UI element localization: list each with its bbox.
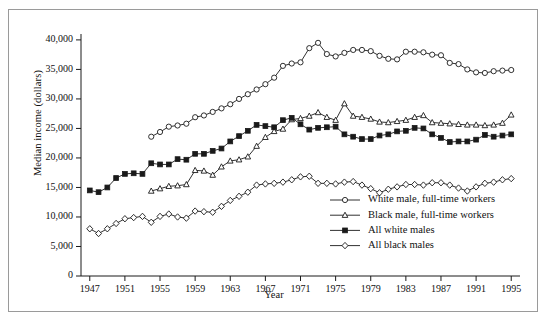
data-point bbox=[430, 52, 435, 57]
data-point bbox=[368, 49, 373, 54]
data-point bbox=[104, 226, 110, 232]
x-tick-label: 1959 bbox=[185, 283, 205, 294]
data-point bbox=[228, 139, 233, 144]
data-point bbox=[324, 180, 330, 186]
data-point bbox=[307, 127, 312, 132]
data-point bbox=[342, 50, 347, 55]
y-tick-label: 30,000 bbox=[46, 92, 74, 103]
data-point bbox=[263, 124, 268, 129]
x-tick-label: 1983 bbox=[396, 283, 416, 294]
data-point bbox=[412, 181, 418, 187]
data-point bbox=[192, 167, 198, 172]
data-point bbox=[447, 60, 452, 65]
data-point bbox=[184, 121, 189, 126]
data-point bbox=[333, 54, 338, 59]
data-point bbox=[359, 47, 364, 52]
data-point bbox=[157, 129, 162, 134]
legend-marker-circle-open bbox=[342, 197, 347, 202]
data-point bbox=[184, 157, 189, 162]
data-point bbox=[447, 182, 453, 188]
data-point bbox=[315, 110, 321, 115]
data-point bbox=[272, 125, 277, 130]
data-point bbox=[403, 128, 408, 133]
data-point bbox=[394, 184, 400, 190]
legend-marker-square-filled bbox=[343, 228, 348, 233]
data-point bbox=[315, 40, 320, 45]
data-point bbox=[447, 140, 452, 145]
x-tick-label: 1987 bbox=[431, 283, 451, 294]
data-point bbox=[175, 123, 180, 128]
data-point bbox=[456, 62, 461, 67]
series-3 bbox=[87, 173, 514, 237]
data-point bbox=[324, 51, 329, 56]
data-point bbox=[272, 75, 277, 80]
data-point bbox=[96, 230, 102, 236]
data-point bbox=[298, 60, 303, 65]
x-axis-ticks: 1947195119551959196319671971197519791983… bbox=[80, 276, 521, 294]
data-point bbox=[473, 184, 479, 190]
data-point bbox=[219, 106, 224, 111]
legend-item-all_white[interactable]: All white males bbox=[330, 224, 435, 235]
legend-label: Black male, full-time workers bbox=[368, 209, 494, 220]
data-point bbox=[350, 178, 356, 184]
data-point bbox=[289, 61, 294, 66]
data-point bbox=[368, 137, 373, 142]
series-line bbox=[151, 43, 511, 137]
x-tick-label: 1947 bbox=[80, 283, 100, 294]
data-point bbox=[438, 180, 444, 186]
y-tick-label: 35,000 bbox=[46, 63, 74, 74]
data-point bbox=[307, 46, 312, 51]
y-tick-label: 25,000 bbox=[46, 122, 74, 133]
data-point bbox=[491, 134, 496, 139]
data-point bbox=[184, 182, 190, 187]
data-point bbox=[254, 122, 259, 127]
data-point bbox=[139, 213, 145, 219]
y-tick-label: 40,000 bbox=[46, 33, 74, 44]
data-point bbox=[474, 70, 479, 75]
data-point bbox=[482, 180, 488, 186]
y-tick-label: 20,000 bbox=[46, 151, 74, 162]
data-point bbox=[403, 181, 409, 187]
x-tick-label: 1975 bbox=[326, 283, 346, 294]
data-point bbox=[456, 139, 461, 144]
data-point bbox=[351, 47, 356, 52]
data-point bbox=[148, 219, 154, 225]
data-point bbox=[131, 214, 137, 220]
data-point bbox=[219, 146, 224, 151]
legend-item-all_black[interactable]: All black males bbox=[330, 239, 434, 250]
data-point bbox=[429, 120, 435, 125]
x-tick-label: 1991 bbox=[466, 283, 486, 294]
data-point bbox=[201, 208, 207, 214]
data-point bbox=[193, 151, 198, 156]
data-point bbox=[280, 179, 286, 185]
data-point bbox=[377, 133, 382, 138]
data-point bbox=[114, 176, 119, 181]
data-point bbox=[465, 67, 470, 72]
legend-item-white_fulltime[interactable]: White male, full-time workers bbox=[330, 193, 495, 204]
data-point bbox=[158, 162, 163, 167]
data-point bbox=[333, 124, 338, 129]
data-point bbox=[491, 69, 496, 74]
legend-label: All white males bbox=[368, 224, 435, 235]
data-point bbox=[509, 132, 514, 137]
data-point bbox=[210, 148, 215, 153]
data-point bbox=[456, 185, 462, 191]
legend-item-black_fulltime[interactable]: Black male, full-time workers bbox=[330, 209, 494, 220]
data-point bbox=[421, 50, 426, 55]
data-point bbox=[201, 113, 206, 118]
axes bbox=[81, 34, 520, 276]
data-point bbox=[377, 53, 382, 58]
data-point bbox=[166, 211, 172, 217]
data-point bbox=[395, 129, 400, 134]
x-tick-label: 1995 bbox=[501, 283, 521, 294]
data-point bbox=[386, 56, 391, 61]
data-point bbox=[439, 135, 444, 140]
data-point bbox=[96, 190, 101, 195]
data-point bbox=[412, 125, 417, 130]
data-point bbox=[298, 174, 304, 180]
data-point bbox=[386, 132, 391, 137]
data-point bbox=[403, 49, 408, 54]
data-point bbox=[438, 53, 443, 58]
data-point bbox=[281, 118, 286, 123]
data-point bbox=[123, 171, 128, 176]
